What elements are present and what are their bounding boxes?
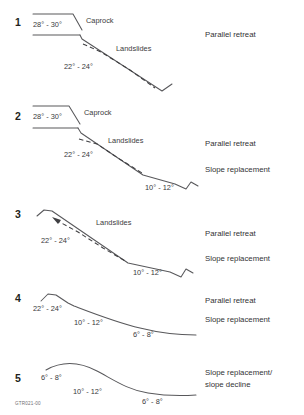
- hillslope-evolution-figure: 1 28° - 30° Caprock Landslides 22° - 24°…: [0, 0, 304, 415]
- angle-label-3-0: 22° - 24°: [41, 236, 70, 245]
- caprock-label-2: Caprock: [84, 108, 112, 117]
- slope-profile-4: [41, 294, 196, 335]
- angle-label-3-1: 10° - 12°: [133, 268, 162, 277]
- process-label-4-0: Parallel retreat: [205, 296, 257, 305]
- process-label-5-0: Slope replacement/: [205, 368, 273, 377]
- angle-label-2-0: 28° - 30°: [33, 112, 62, 121]
- caprock-label-1: Caprock: [86, 16, 114, 25]
- landslides-label-2: Landslides: [108, 136, 144, 145]
- landslides-label-1: Landslides: [116, 44, 152, 53]
- angle-label-5-2: 6° - 8°: [142, 397, 163, 406]
- angle-label-5-0: 6° - 8°: [41, 373, 62, 382]
- angle-label-2-2: 10° - 12°: [145, 183, 174, 192]
- angle-label-2-1: 22° - 24°: [64, 150, 93, 159]
- stage-number-3: 3: [15, 208, 21, 220]
- process-label-5-1: slope decline: [205, 380, 251, 389]
- figure-credit: GTR021-00: [15, 401, 41, 406]
- panel-5: 5 6° - 8° 10° - 12° 6° - 8° Slope replac…: [15, 364, 273, 406]
- panel-4: 4 22° - 24° 10° - 12° 6° - 8° Parallel r…: [15, 292, 271, 339]
- process-label-4-1: Slope replacement: [205, 315, 271, 324]
- angle-label-4-0: 22° - 24°: [33, 304, 62, 313]
- landslide-arrow-3: [52, 217, 61, 224]
- panel-3: 3 Landslides 22° - 24° 10° - 12° Paralle…: [15, 208, 271, 277]
- process-label-2-0: Parallel retreat: [205, 139, 257, 148]
- slope-profile-5: [46, 364, 196, 396]
- landslides-label-3: Landslides: [96, 218, 132, 227]
- panel-1: 1 28° - 30° Caprock Landslides 22° - 24°…: [15, 14, 257, 91]
- angle-label-4-1: 10° - 12°: [74, 318, 103, 327]
- panel-2: 2 28° - 30° Caprock Landslides 22° - 24°…: [15, 106, 271, 192]
- process-label-3-1: Slope replacement: [205, 254, 271, 263]
- angle-label-1-0: 28° - 30°: [33, 20, 62, 29]
- stage-number-2: 2: [15, 110, 21, 122]
- stage-number-4: 4: [15, 292, 21, 304]
- angle-label-1-1: 22° - 24°: [64, 62, 93, 71]
- process-label-1-0: Parallel retreat: [205, 30, 257, 39]
- angle-label-4-2: 6° - 8°: [133, 330, 154, 339]
- process-label-3-0: Parallel retreat: [205, 229, 257, 238]
- stage-number-5: 5: [15, 372, 21, 384]
- angle-label-5-1: 10° - 12°: [73, 387, 102, 396]
- stage-number-1: 1: [15, 16, 21, 28]
- process-label-2-1: Slope replacement: [205, 165, 271, 174]
